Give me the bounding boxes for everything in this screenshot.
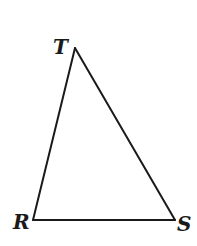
triangle-diagram: T R S bbox=[0, 0, 197, 246]
vertex-label-t: T bbox=[53, 37, 68, 57]
vertex-label-s: S bbox=[177, 214, 191, 234]
side-rt bbox=[33, 48, 75, 220]
vertex-label-r: R bbox=[13, 212, 30, 232]
side-ts bbox=[75, 48, 175, 220]
